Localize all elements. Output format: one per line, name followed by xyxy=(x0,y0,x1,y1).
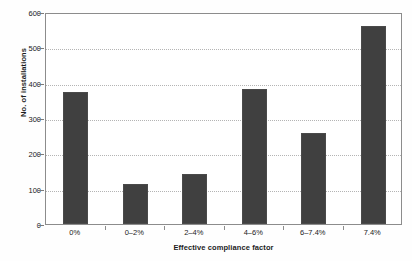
x-axis-labels: 0%0–2%2–4%4–6%6–7.4%7.4% xyxy=(45,228,402,242)
bar xyxy=(123,184,148,224)
bar xyxy=(301,133,326,224)
bars-layer xyxy=(46,14,401,224)
y-tick-label: 100 xyxy=(7,185,41,194)
bar xyxy=(182,174,207,224)
bar xyxy=(361,26,386,224)
y-tick-mark xyxy=(38,154,44,155)
y-tick-label: 600 xyxy=(7,9,41,18)
y-tick-mark xyxy=(38,13,44,14)
y-tick-mark xyxy=(38,48,44,49)
y-tick-mark xyxy=(38,225,44,226)
y-tick-label: 0 xyxy=(7,221,41,230)
y-tick-mark xyxy=(38,84,44,85)
y-tick-label: 500 xyxy=(7,44,41,53)
plot-area xyxy=(45,13,402,225)
x-axis-title: Effective compliance factor xyxy=(45,243,402,252)
bar xyxy=(242,89,267,224)
y-axis: 0100200300400500600 xyxy=(0,13,41,225)
y-tick-label: 300 xyxy=(7,115,41,124)
bar-chart: No. of installations 0100200300400500600… xyxy=(0,0,412,261)
y-tick-label: 400 xyxy=(7,79,41,88)
y-tick-mark xyxy=(38,119,44,120)
x-tick-label: 7.4% xyxy=(337,228,407,237)
bar xyxy=(63,92,88,225)
y-tick-label: 200 xyxy=(7,150,41,159)
y-tick-mark xyxy=(38,190,44,191)
